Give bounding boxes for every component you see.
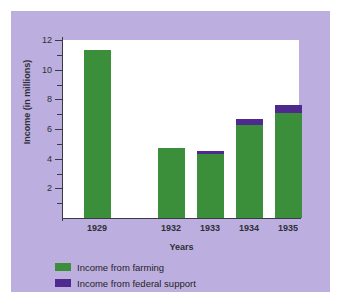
legend-item-federal-support: Income from federal support (55, 276, 196, 290)
bar-stack (158, 148, 185, 218)
bar-segment-farming[interactable] (275, 113, 302, 218)
y-axis-line (62, 37, 63, 221)
bar-segment-federal-support[interactable] (275, 105, 302, 112)
bar-segment-farming[interactable] (197, 154, 224, 218)
bar-group[interactable] (158, 40, 185, 218)
legend-label-farming: Income from farming (77, 262, 164, 273)
bar-group[interactable] (236, 40, 263, 218)
y-tick-minor (57, 203, 62, 204)
y-tick-minor (57, 85, 62, 86)
y-tick-major (55, 40, 62, 41)
y-tick-minor (57, 144, 62, 145)
y-tick-label: 10 (28, 66, 52, 75)
x-tick-label: 1935 (266, 223, 310, 233)
y-tick-major (55, 188, 62, 189)
bar-stack (84, 50, 111, 218)
legend-swatch-federal-support (55, 279, 71, 287)
y-tick-minor (57, 174, 62, 175)
bar-segment-farming[interactable] (158, 148, 185, 218)
bar-segment-farming[interactable] (84, 50, 111, 218)
bar-group[interactable] (84, 40, 111, 218)
bar-group[interactable] (197, 40, 224, 218)
chart-figure: Income (in millions) Years 24681012 1929… (11, 11, 330, 292)
y-tick-label: 8 (28, 95, 52, 104)
bar-stack (236, 119, 263, 218)
x-axis-title: Years (62, 242, 301, 252)
y-tick-major (55, 159, 62, 160)
bar-stack (275, 105, 302, 218)
x-axis-line (62, 218, 301, 219)
legend-item-farming: Income from farming (55, 260, 196, 274)
legend-swatch-farming (55, 263, 71, 271)
bar-group[interactable] (275, 40, 302, 218)
y-tick-minor (57, 114, 62, 115)
y-tick-major (55, 99, 62, 100)
y-tick-label: 4 (28, 155, 52, 164)
chart-legend: Income from farming Income from federal … (55, 260, 196, 292)
legend-label-federal-support: Income from federal support (77, 278, 196, 289)
y-tick-minor (57, 55, 62, 56)
y-tick-major (55, 129, 62, 130)
y-tick-label: 12 (28, 36, 52, 45)
y-tick-label: 6 (28, 125, 52, 134)
x-tick-label: 1932 (149, 223, 193, 233)
x-tick-label: 1929 (75, 223, 119, 233)
bar-segment-farming[interactable] (236, 125, 263, 218)
bar-stack (197, 151, 224, 218)
y-tick-major (55, 70, 62, 71)
x-tick-label: 1933 (188, 223, 232, 233)
y-tick-label: 2 (28, 184, 52, 193)
x-tick-label: 1934 (227, 223, 271, 233)
